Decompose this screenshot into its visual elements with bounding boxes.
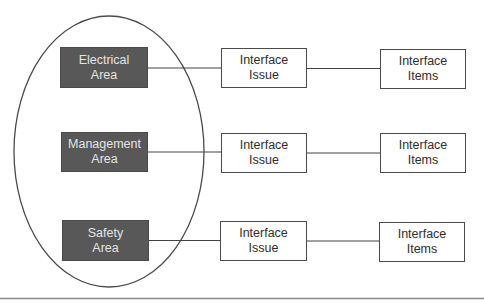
- interface-items-box: Interface Items: [380, 133, 466, 173]
- issue-label-line1: Interface: [240, 138, 289, 153]
- interface-issue-box: Interface Issue: [221, 48, 307, 88]
- interface-items-box: Interface Items: [379, 222, 465, 262]
- issue-label-line1: Interface: [240, 53, 289, 68]
- interface-issue-box: Interface Issue: [221, 133, 307, 173]
- area-label-line2: Area: [92, 241, 118, 256]
- area-label-line1: Safety: [88, 226, 123, 241]
- items-label-line1: Interface: [399, 54, 448, 69]
- management-area-box: Management Area: [61, 132, 148, 172]
- area-label-line2: Area: [91, 68, 117, 83]
- issue-label-line2: Issue: [249, 153, 279, 168]
- items-label-line2: Items: [408, 153, 439, 168]
- safety-area-box: Safety Area: [62, 220, 149, 261]
- items-label-line2: Items: [407, 242, 438, 257]
- interface-items-box: Interface Items: [380, 49, 466, 89]
- interface-diagram: Electrical Area Interface Issue Interfac…: [0, 0, 484, 304]
- electrical-area-box: Electrical Area: [60, 47, 148, 88]
- issue-label-line1: Interface: [239, 226, 288, 241]
- area-label-line2: Area: [91, 152, 117, 167]
- issue-label-line2: Issue: [249, 68, 279, 83]
- interface-issue-box: Interface Issue: [220, 221, 307, 261]
- items-label-line1: Interface: [399, 138, 448, 153]
- items-label-line2: Items: [408, 69, 439, 84]
- items-label-line1: Interface: [398, 227, 447, 242]
- area-label-line1: Management: [68, 137, 141, 152]
- area-label-line1: Electrical: [79, 53, 130, 68]
- issue-label-line2: Issue: [249, 241, 279, 256]
